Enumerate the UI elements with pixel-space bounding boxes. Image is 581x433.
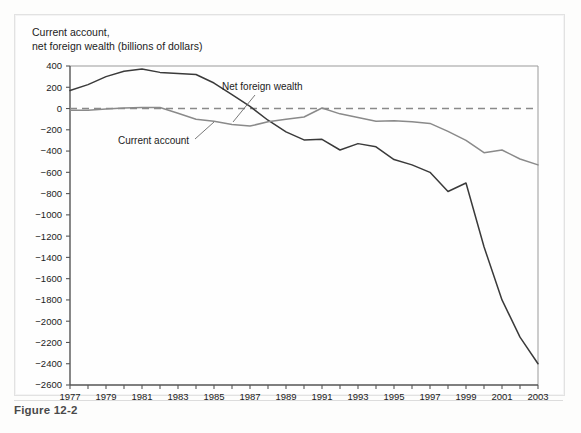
y-tick-label: −2400	[35, 358, 62, 369]
y-tick-label: −800	[41, 188, 62, 199]
series-annotations: Net foreign wealthCurrent account	[118, 81, 303, 146]
y-tick-label: 0	[57, 103, 62, 114]
y-tick-label: −1400	[35, 252, 62, 263]
scanned-page: Current account, net foreign wealth (bil…	[0, 0, 581, 433]
y-tick-label: −400	[41, 145, 62, 156]
y-tick-label: −200	[41, 124, 62, 135]
current-account-label: Current account	[118, 135, 189, 146]
caption-divider	[14, 400, 563, 401]
axes-layer	[70, 66, 538, 385]
series-line-net-foreign-wealth	[70, 69, 538, 364]
y-tick-label: −1600	[35, 273, 62, 284]
current-account-leader	[195, 122, 214, 139]
y-tick-label: −2000	[35, 316, 62, 327]
y-tick-label: 400	[46, 60, 62, 71]
figure-caption: Figure 12-2	[14, 404, 78, 416]
y-axis-ticks: 4002000−200−400−600−800−1000−1200−1400−1…	[35, 60, 70, 390]
y-tick-label: −1200	[35, 231, 62, 242]
y-tick-label: 200	[46, 82, 62, 93]
data-series-layer	[70, 69, 538, 364]
y-tick-label: −2600	[35, 379, 62, 390]
y-tick-label: −2200	[35, 337, 62, 348]
y-tick-label: −600	[41, 167, 62, 178]
y-tick-label: −1000	[35, 209, 62, 220]
y-tick-label: −1800	[35, 294, 62, 305]
chart-plot-area: 4002000−200−400−600−800−1000−1200−1400−1…	[0, 0, 581, 433]
net-foreign-wealth-label: Net foreign wealth	[222, 81, 303, 92]
